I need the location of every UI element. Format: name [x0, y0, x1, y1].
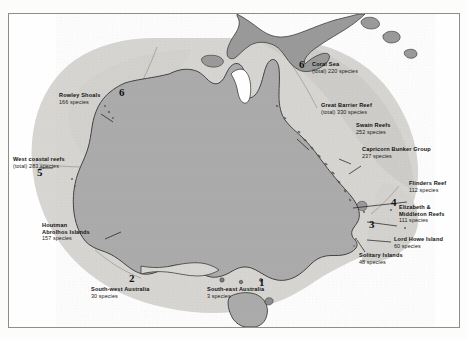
cropped-text-fragment-band: g h p j s d c h n l e — [0, 0, 468, 13]
land-island-s-1 — [220, 278, 224, 282]
label-great-barrier-reef: Great Barrier Reef (total) 330 species — [321, 102, 372, 115]
zone-number-1: 1 — [259, 276, 265, 288]
label-rowley-shoals: Rowley Shoals 166 species — [59, 92, 100, 105]
label-swain-reefs: Swain Reefs 252 species — [356, 122, 391, 135]
australia-reef-map — [9, 14, 459, 327]
zone-number-6-northwest: 6 — [119, 86, 125, 98]
zone-number-5: 5 — [37, 166, 43, 178]
zone-number-3: 3 — [369, 218, 375, 230]
land-island-ne-2 — [383, 31, 400, 43]
label-south-east-australia: South-east Australia 3 species — [207, 286, 264, 299]
cropped-text-fragment: g h p j s d c h n l e — [0, 6, 468, 13]
label-coral-sea: Coral Sea (total) 220 species — [312, 61, 358, 74]
land-island-ne-3 — [404, 49, 417, 58]
land-tasmania-offshore — [265, 298, 273, 305]
map-figure-frame: Rowley Shoals 166 species Coral Sea (tot… — [8, 13, 460, 328]
zone-number-4: 4 — [391, 196, 397, 208]
label-houtman-abrolhos-islands: Houtman Abrolhos Islands 157 species — [42, 222, 90, 242]
label-solitary-islands: Solitary Islands 48 species — [359, 252, 403, 265]
zone-number-2: 2 — [129, 272, 135, 284]
label-capricorn-bunker-group: Capricorn Bunker Group 237 species — [362, 146, 431, 159]
label-flinders-reef: Flinders Reef 112 species — [409, 180, 446, 193]
zone-number-6-coral-sea: 6 — [299, 58, 305, 70]
scanned-page: g h p j s d c h n l e — [0, 0, 468, 339]
land-island-s-2 — [239, 280, 243, 284]
label-south-west-australia: South-west Australia 30 species — [91, 286, 149, 299]
land-island-ne-1 — [361, 17, 380, 29]
label-lord-howe-island: Lord Howe Island 60 species — [394, 236, 443, 249]
label-elizabeth-middleton-reefs: Elizabeth & Middleton Reefs 111 species — [399, 204, 444, 224]
